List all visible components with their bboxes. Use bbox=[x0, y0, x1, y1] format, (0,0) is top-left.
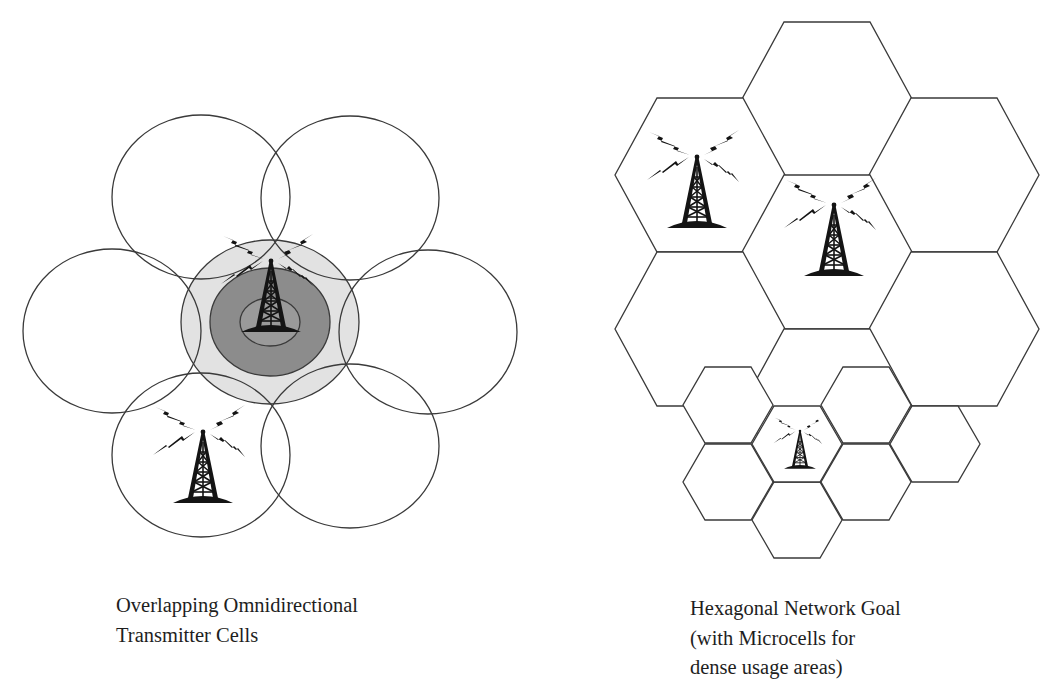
omnidirectional-cells-panel bbox=[23, 115, 517, 537]
caption-line: Transmitter Cells bbox=[116, 621, 358, 651]
caption-hexagonal: Hexagonal Network Goal (with Microcells … bbox=[690, 594, 901, 683]
caption-omnidirectional: Overlapping Omnidirectional Transmitter … bbox=[116, 591, 358, 650]
circle-right bbox=[339, 250, 517, 414]
caption-line: Hexagonal Network Goal bbox=[690, 594, 901, 624]
circle-left bbox=[23, 249, 201, 413]
caption-line: Overlapping Omnidirectional bbox=[116, 591, 358, 621]
hexagonal-network-panel bbox=[615, 22, 1039, 558]
tower-bottom-left-icon bbox=[153, 405, 245, 503]
caption-line: dense usage areas) bbox=[690, 653, 901, 683]
caption-line: (with Microcells for bbox=[690, 624, 901, 654]
